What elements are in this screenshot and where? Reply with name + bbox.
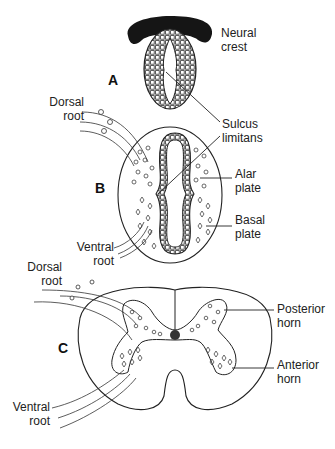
label-dorsal-root-c: Dorsal root (24, 260, 62, 288)
label-anterior-horn: Anterior horn (277, 358, 319, 386)
label-dorsal-root-b: Dorsal root (46, 95, 84, 123)
label-alar-plate: Alar plate (235, 167, 261, 195)
label-posterior-horn: Posterior horn (277, 302, 325, 330)
canal-b (164, 140, 186, 247)
label-ventral-root-c: Ventral root (6, 400, 50, 428)
panel-label-a: A (108, 72, 118, 88)
panel-label-b: B (95, 180, 105, 196)
panel-label-c: C (58, 340, 68, 356)
label-ventral-root-b: Ventral root (70, 240, 114, 268)
embryology-figure: A B C Neural crest Sulcus limitans Dorsa… (0, 0, 335, 449)
panel-a-drawing (128, 16, 220, 122)
label-basal-plate: Basal plate (235, 213, 265, 241)
panel-c-drawing (34, 280, 274, 428)
label-neural-crest: Neural crest (221, 26, 256, 54)
central-canal (170, 330, 180, 340)
label-sulcus-limitans: Sulcus limitans (222, 117, 263, 145)
